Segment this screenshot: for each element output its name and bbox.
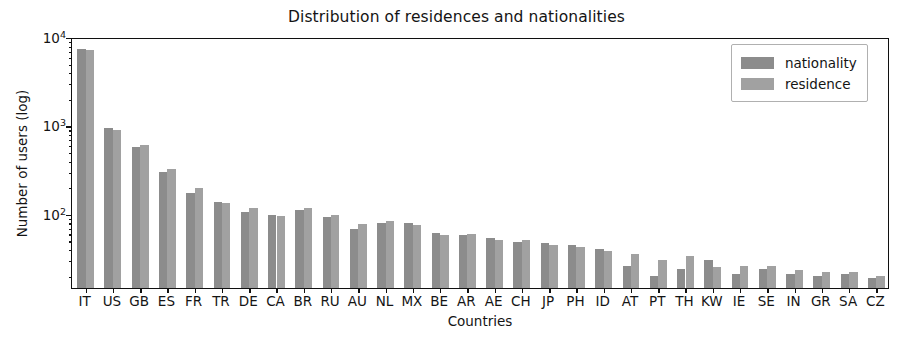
bar-residence-AT — [631, 254, 639, 288]
bar-residence-KW — [713, 267, 721, 288]
bar-residence-GR — [822, 272, 830, 288]
bar-residence-ES — [167, 169, 175, 288]
bar-residence-AR — [467, 234, 475, 288]
x-tick-ES — [167, 288, 168, 293]
bar-residence-CZ — [876, 276, 884, 288]
bar-residence-BR — [304, 208, 312, 289]
x-tick-CA — [276, 288, 277, 293]
x-tick-NL — [386, 288, 387, 293]
bar-nationality-JP — [541, 243, 549, 288]
x-tick-label-CZ: CZ — [853, 293, 897, 309]
bar-nationality-RU — [323, 217, 331, 288]
bar-residence-CA — [277, 216, 285, 288]
x-tick-FR — [195, 288, 196, 293]
x-tick-MX — [413, 288, 414, 293]
legend-label-nationality: nationality — [785, 55, 857, 71]
x-tick-IT — [86, 288, 87, 293]
x-tick-DE — [249, 288, 250, 293]
bar-nationality-US — [104, 128, 112, 288]
bar-nationality-ES — [159, 172, 167, 288]
bar-nationality-GB — [132, 147, 140, 288]
bar-group — [623, 39, 640, 288]
x-tick-CH — [522, 288, 523, 293]
bar-group — [404, 39, 421, 288]
bar-nationality-AU — [350, 229, 358, 288]
bar-nationality-TH — [677, 269, 685, 288]
bar-group — [868, 39, 885, 288]
bar-nationality-IE — [732, 274, 740, 288]
bar-nationality-BR — [295, 210, 303, 288]
bar-residence-NL — [386, 221, 394, 288]
bar-residence-JP — [549, 245, 557, 288]
x-tick-TH — [685, 288, 686, 293]
bar-residence-SA — [849, 272, 857, 288]
x-tick-AE — [495, 288, 496, 293]
bar-nationality-CH — [513, 242, 521, 288]
bar-group — [77, 39, 94, 288]
x-tick-AR — [467, 288, 468, 293]
bar-group — [186, 39, 203, 288]
bar-nationality-AE — [486, 238, 494, 288]
bar-residence-PH — [576, 247, 584, 288]
bar-group — [459, 39, 476, 288]
y-tick-label-1000: 103 — [26, 118, 66, 134]
x-tick-AU — [358, 288, 359, 293]
bar-residence-AU — [358, 224, 366, 288]
x-tick-KW — [713, 288, 714, 293]
bar-residence-FR — [195, 188, 203, 288]
bar-group — [104, 39, 121, 288]
bar-residence-BE — [440, 235, 448, 288]
bar-group — [432, 39, 449, 288]
bar-nationality-SE — [759, 269, 767, 288]
bar-nationality-IN — [786, 274, 794, 288]
bar-group — [214, 39, 231, 288]
y-tick-label-100: 102 — [26, 207, 66, 223]
x-tick-BR — [304, 288, 305, 293]
bar-group — [159, 39, 176, 288]
bar-residence-IN — [795, 270, 803, 288]
bar-residence-DE — [249, 208, 257, 288]
bar-nationality-CZ — [868, 278, 876, 288]
bar-nationality-FR — [186, 193, 194, 288]
chart-title: Distribution of residences and nationali… — [0, 8, 913, 26]
bar-nationality-DE — [241, 212, 249, 288]
bar-nationality-IT — [77, 49, 85, 288]
bar-residence-MX — [413, 225, 421, 288]
x-tick-BE — [440, 288, 441, 293]
x-tick-AT — [631, 288, 632, 293]
bar-group — [350, 39, 367, 288]
bar-residence-AE — [495, 240, 503, 288]
x-tick-IE — [740, 288, 741, 293]
bar-group — [295, 39, 312, 288]
x-tick-PT — [658, 288, 659, 293]
bar-group — [268, 39, 285, 288]
bar-group — [513, 39, 530, 288]
bar-nationality-AT — [623, 266, 631, 288]
bar-group — [132, 39, 149, 288]
bar-residence-TR — [222, 203, 230, 288]
bar-group — [650, 39, 667, 288]
bar-group — [486, 39, 503, 288]
x-tick-SA — [849, 288, 850, 293]
x-tick-TR — [222, 288, 223, 293]
bar-group — [541, 39, 558, 288]
bar-residence-PT — [658, 260, 666, 288]
bar-nationality-NL — [377, 223, 385, 288]
bar-residence-ID — [604, 251, 612, 288]
bar-residence-US — [113, 130, 121, 288]
legend-item-residence: residence — [741, 73, 857, 94]
bar-group — [323, 39, 340, 288]
bar-residence-TH — [686, 256, 694, 288]
x-axis-tick-labels: ITUSGBESFRTRDECABRRUAUNLMXBEARAECHJPPHID… — [71, 293, 889, 313]
x-tick-SE — [767, 288, 768, 293]
legend-item-nationality: nationality — [741, 52, 857, 73]
y-tick-label-10000: 104 — [26, 30, 66, 46]
x-tick-RU — [331, 288, 332, 293]
x-tick-IN — [795, 288, 796, 293]
bar-nationality-KW — [704, 260, 712, 288]
x-tick-CZ — [876, 288, 877, 293]
bar-nationality-ID — [595, 249, 603, 288]
bar-nationality-MX — [404, 223, 412, 288]
bar-residence-GB — [140, 145, 148, 288]
bar-residence-SE — [767, 266, 775, 288]
